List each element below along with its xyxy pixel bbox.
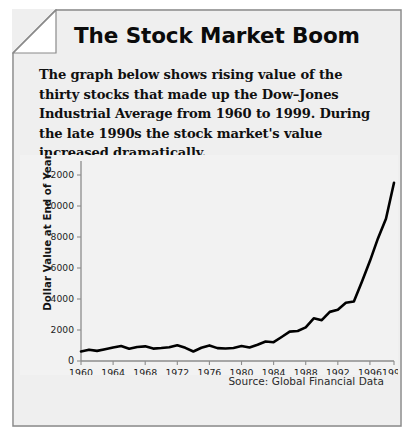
y-axis-title: Dollar Value at End of Year [42, 148, 53, 318]
svg-text:1960: 1960 [69, 367, 93, 376]
chart-plot-background [20, 155, 398, 375]
svg-text:1980: 1980 [230, 367, 254, 376]
chart-canvas: 020004000600080001000012000 196019641968… [20, 155, 398, 375]
svg-text:1984: 1984 [262, 367, 286, 376]
source-caption: Source: Global Financial Data [228, 375, 384, 387]
fact-card: The Stock Market Boom The graph below sh… [12, 9, 402, 427]
svg-text:1988: 1988 [294, 367, 318, 376]
svg-text:6000: 6000 [51, 262, 75, 273]
page-title: The Stock Market Boom [74, 23, 360, 48]
page-root: The Stock Market Boom The graph below sh… [0, 0, 418, 448]
svg-text:1968: 1968 [133, 367, 157, 376]
svg-text:1999: 1999 [382, 367, 398, 376]
svg-text:1972: 1972 [165, 367, 189, 376]
description-paragraph: The graph below shows rising value of th… [39, 65, 385, 163]
svg-text:1964: 1964 [101, 367, 125, 376]
svg-text:2000: 2000 [51, 324, 75, 335]
line-chart: Dollar Value at End of Year 020004000600… [20, 155, 398, 375]
svg-text:1996: 1996 [358, 367, 382, 376]
svg-text:4000: 4000 [51, 293, 75, 304]
svg-text:0: 0 [68, 355, 74, 366]
svg-text:1976: 1976 [197, 367, 221, 376]
svg-text:8000: 8000 [51, 231, 75, 242]
svg-text:1992: 1992 [326, 367, 350, 376]
